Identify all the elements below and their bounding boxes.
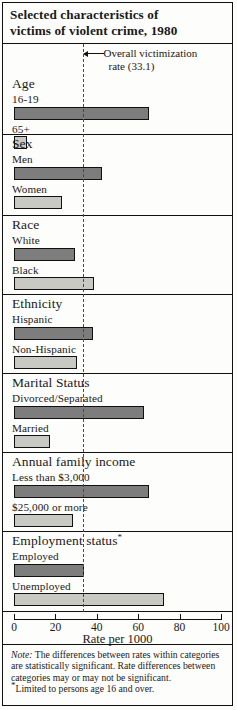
group-label: Employment status* xyxy=(3,532,232,549)
bar-row xyxy=(3,406,232,419)
bar-label: Black xyxy=(3,263,232,278)
bar xyxy=(14,167,102,180)
bar xyxy=(14,564,84,577)
bar-label: Divorced/Separated xyxy=(3,391,232,406)
bar-label: Married xyxy=(3,421,232,436)
axis-tick xyxy=(180,614,181,620)
axis-tick-label: 100 xyxy=(212,621,229,633)
group-label: Race xyxy=(3,216,232,233)
axis-tick xyxy=(14,614,15,620)
bar-row xyxy=(3,593,232,606)
bar-row xyxy=(3,564,232,577)
chart-title-line-2: victims of violent crime, 1980 xyxy=(10,23,225,39)
bar xyxy=(14,485,149,498)
bar-label: 65+ xyxy=(3,122,232,137)
bar-row xyxy=(3,514,232,527)
chart-frame: Selected characteristics of victims of v… xyxy=(2,2,233,706)
bar-label: Employed xyxy=(3,549,232,564)
bar xyxy=(14,514,73,527)
group-label-footnote-marker: * xyxy=(118,532,123,542)
axis-title: Rate per 1000 xyxy=(3,632,232,647)
group-sex: SexMenWomen xyxy=(3,135,232,216)
axis-tick-label: 60 xyxy=(132,621,144,633)
note-footnote: Limited to persons age 16 and over. xyxy=(16,683,155,694)
group-employment-status: Employment status*EmployedUnemployed xyxy=(3,532,232,612)
bar-row xyxy=(3,196,232,209)
group-ethnicity: EthnicityHispanicNon-Hispanic xyxy=(3,295,232,374)
reference-line-arrow-icon xyxy=(84,53,104,54)
axis-tick-label: 0 xyxy=(11,621,17,633)
bar-label: $25,000 or more xyxy=(3,500,232,515)
bar xyxy=(14,435,50,448)
axis-tick-label: 80 xyxy=(174,621,186,633)
bar xyxy=(14,327,93,340)
bar-row xyxy=(3,167,232,180)
group-label: Ethnicity xyxy=(3,295,232,312)
bar-label: Men xyxy=(3,152,232,167)
bar-row xyxy=(3,107,232,120)
chart-title: Selected characteristics of victims of v… xyxy=(3,3,232,44)
chart-note: Note: The differences between rates with… xyxy=(3,645,232,699)
axis-line xyxy=(14,619,221,620)
group-label: Annual family income xyxy=(3,453,232,470)
bar-row xyxy=(3,485,232,498)
bar-label: Unemployed xyxy=(3,579,232,594)
group-label: Sex xyxy=(3,135,232,152)
axis-tick xyxy=(55,614,56,620)
group-label: Marital Status xyxy=(3,374,232,391)
bar-row xyxy=(3,435,232,448)
axis-tick xyxy=(97,614,98,620)
bar-row xyxy=(3,248,232,261)
bar xyxy=(14,593,164,606)
bar xyxy=(14,356,77,369)
bar-row xyxy=(3,327,232,340)
bar-label: Less than $3,000 xyxy=(3,470,232,485)
group-annual-family-income: Annual family incomeLess than $3,000$25,… xyxy=(3,453,232,532)
bar xyxy=(14,406,144,419)
bar xyxy=(14,196,62,209)
chart-title-line-1: Selected characteristics of xyxy=(10,7,225,23)
note-body: The differences between rates within cat… xyxy=(11,649,219,683)
bar xyxy=(14,277,94,290)
axis-tick-label: 40 xyxy=(91,621,103,633)
x-axis: Rate per 1000 020406080100 xyxy=(3,612,232,645)
reference-line-callout-line-1: Overall victimization xyxy=(104,47,198,60)
bar-label: White xyxy=(3,233,232,248)
plot-area: Overall victimizationrate (33.1)Age16-19… xyxy=(3,44,232,612)
note-prefix: Note: xyxy=(11,649,33,660)
bar xyxy=(14,248,75,261)
axis-tick-label: 20 xyxy=(50,621,62,633)
reference-line-callout-line-2: rate (33.1) xyxy=(104,60,198,73)
bar-label: Hispanic xyxy=(3,312,232,327)
bar xyxy=(14,107,149,120)
bar-label: Women xyxy=(3,182,232,197)
bar-row xyxy=(3,356,232,369)
group-race: RaceWhiteBlack xyxy=(3,216,232,295)
group-age: Overall victimizationrate (33.1)Age16-19… xyxy=(3,44,232,135)
bar-label: Non-Hispanic xyxy=(3,342,232,357)
bar-label: 16-19 xyxy=(3,92,232,107)
chart-figure: Selected characteristics of victims of v… xyxy=(0,0,237,710)
bar-row xyxy=(3,277,232,290)
axis-tick xyxy=(221,614,222,620)
group-marital-status: Marital StatusDivorced/SeparatedMarried xyxy=(3,374,232,453)
reference-line-callout: Overall victimizationrate (33.1) xyxy=(104,47,198,72)
axis-tick xyxy=(138,614,139,620)
